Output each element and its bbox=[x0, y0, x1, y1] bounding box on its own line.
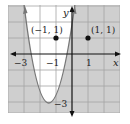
y-tick-label-neg3: −3 bbox=[54, 99, 68, 109]
x-axis-label: x bbox=[113, 57, 119, 68]
x-tick-label-1: 1 bbox=[86, 58, 92, 68]
point-label-neg1-1: (−1, 1) bbox=[31, 25, 63, 35]
point-neg1-1 bbox=[53, 35, 58, 40]
parabola-graph: y x −3 −1 1 −3 (−1, 1) (1, 1) bbox=[0, 0, 130, 124]
x-tick-label-neg1: −1 bbox=[46, 58, 59, 68]
point-1-1 bbox=[85, 35, 90, 40]
y-axis-label: y bbox=[62, 7, 69, 18]
y-axis-arrow-down-icon bbox=[70, 111, 75, 117]
x-tick-label-neg3: −3 bbox=[14, 58, 28, 68]
point-label-1-1: (1, 1) bbox=[91, 25, 115, 35]
